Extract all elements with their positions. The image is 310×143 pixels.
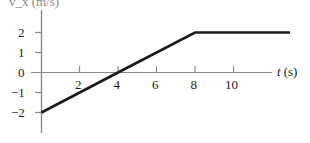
x-tick-label-8: 8 xyxy=(191,78,198,91)
y-tick-label-minus-1: −1 xyxy=(11,86,25,99)
y-tick-label-minus-2: −2 xyxy=(11,106,25,119)
x-axis-unit: (s) xyxy=(284,64,298,79)
velocity-time-graph-figure: 2 1 0 −1 −2 2 4 6 8 10 t(s) v_x (m/s) xyxy=(0,0,310,143)
y-axis-title: v_x (m/s) xyxy=(9,0,59,8)
y-tick-label-1: 1 xyxy=(18,46,25,59)
plot-area xyxy=(0,0,310,143)
y-tick-label-0: 0 xyxy=(18,66,25,79)
x-axis-ticks xyxy=(80,66,234,73)
y-tick-label-2: 2 xyxy=(18,26,25,39)
x-axis-title: t(s) xyxy=(277,65,297,78)
x-tick-label-10: 10 xyxy=(225,78,238,91)
x-tick-label-6: 6 xyxy=(152,78,159,91)
x-tick-label-4: 4 xyxy=(114,78,121,91)
x-tick-label-2: 2 xyxy=(75,78,82,91)
x-axis-symbol: t xyxy=(277,64,281,79)
